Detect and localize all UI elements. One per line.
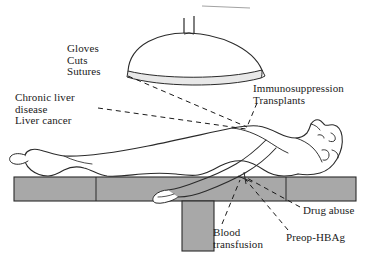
patient-face — [318, 133, 338, 158]
leader-immunosuppression — [247, 103, 257, 127]
diagram-canvas: Gloves Cuts Sutures Chronic liver diseas… — [0, 0, 368, 260]
leader-chronic-liver — [98, 108, 246, 129]
label-blood-transfusion: Blood transfusion — [213, 227, 263, 250]
diagram-illustration — [0, 0, 368, 260]
label-gloves-cuts-sutures: Gloves Cuts Sutures — [67, 43, 101, 78]
label-drug-abuse: Drug abuse — [303, 205, 354, 217]
label-preop-hbag: Preop-HBAg — [286, 232, 345, 244]
table-leg — [182, 201, 214, 251]
label-immunosuppression-transplants: Immunosuppression Transplants — [253, 83, 344, 106]
operating-table — [14, 177, 356, 201]
label-chronic-liver-disease: Chronic liver disease Liver cancer — [15, 92, 75, 127]
ceiling-rail-line — [202, 6, 250, 8]
lamp-stem — [184, 16, 194, 34]
surgical-lamp — [127, 33, 265, 85]
